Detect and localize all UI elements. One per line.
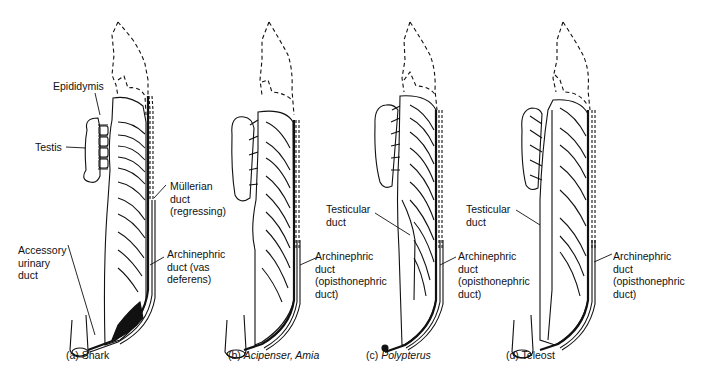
caption-c: (c) Polypterus xyxy=(366,349,431,361)
caption-d: (d) Teleost xyxy=(506,349,555,361)
diagram-canvas xyxy=(0,0,704,375)
label-testis: Testis xyxy=(35,141,62,154)
label-testicular-duct-d: Testicular duct xyxy=(466,203,510,228)
label-archinephric-duct-d: Archinephric duct (opisthonephric duct) xyxy=(613,250,685,300)
label-accessory-urinary-duct: Accessory urinary duct xyxy=(18,244,66,282)
label-mullerian-duct: Müllerian duct (regressing) xyxy=(170,180,226,218)
teleost-figure xyxy=(512,22,595,358)
caption-b: (b) Acipenser, Amia xyxy=(228,349,319,361)
label-archinephric-duct-vas-deferens: Archinephric duct (vas deferens) xyxy=(167,248,225,286)
label-epididymis: Epididymis xyxy=(53,80,104,93)
label-archinephric-duct-b: Archinephric duct (opisthonephric duct) xyxy=(315,250,387,300)
shark-figure xyxy=(70,22,155,357)
label-archinephric-duct-c: Archinephric duct (opisthonephric duct) xyxy=(458,250,530,300)
caption-a: (a) Shark xyxy=(66,349,109,361)
label-testicular-duct-c: Testicular duct xyxy=(326,203,370,228)
polypterus-figure xyxy=(375,22,443,352)
acipenser-figure xyxy=(225,22,300,358)
